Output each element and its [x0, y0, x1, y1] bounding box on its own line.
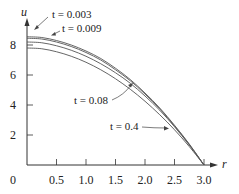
y-tick-label: 2 [10, 128, 16, 142]
x-tick-label: 3.0 [197, 173, 212, 187]
y-ticks: 2468 [10, 38, 33, 142]
x-axis-label: r [222, 157, 227, 171]
x-tick-label: 1.5 [108, 173, 123, 187]
y-tick-label: 4 [10, 98, 16, 112]
origin-label: 0 [10, 173, 16, 187]
annotation-t-008: t = 0.08 [74, 94, 109, 106]
y-axis-label: u [21, 5, 27, 19]
x-ticks: 0.51.01.52.02.53.0 [49, 159, 212, 187]
x-tick-label: 1.0 [79, 173, 94, 187]
y-tick-label: 6 [10, 68, 16, 82]
curve-series-0 [27, 37, 204, 165]
curve-series-3 [27, 48, 204, 165]
chart-figure: 0.51.01.52.02.53.0 2468 0 r u t = 0.003 … [0, 0, 239, 194]
arrowhead-icon [164, 126, 169, 131]
y-axis-arrow-icon [25, 18, 30, 26]
annotation-t-0009: t = 0.009 [62, 22, 102, 34]
annotation-t-04: t = 0.4 [110, 120, 139, 132]
curve-series-2 [27, 42, 204, 165]
x-tick-label: 2.0 [138, 173, 153, 187]
x-tick-label: 2.5 [167, 173, 182, 187]
curves [27, 37, 204, 165]
x-tick-label: 0.5 [49, 173, 64, 187]
annotation-t-0003: t = 0.003 [52, 8, 92, 20]
y-tick-label: 8 [10, 38, 16, 52]
arrowhead-icon [51, 32, 56, 36]
x-axis-arrow-icon [210, 163, 218, 168]
curve-series-1 [27, 38, 204, 165]
leader-t-04 [142, 127, 166, 128]
